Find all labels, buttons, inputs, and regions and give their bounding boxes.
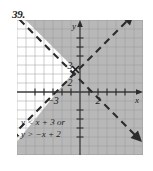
y-tick-label-2: 2 <box>68 77 73 88</box>
x-tick-label-2: 2 <box>96 95 101 106</box>
x-axis-label: x <box>134 95 139 105</box>
x-tick-label-minus-3: −3 <box>47 95 59 106</box>
y-tick-label-3: 3 <box>67 60 73 71</box>
problem-number: 39. <box>12 8 25 20</box>
inequality-caption: y < x + 3 or y > −x + 2 <box>21 117 65 140</box>
inequality-line-1: y < x + 3 or <box>21 117 65 129</box>
figure-root: 39. <box>0 0 153 171</box>
inequality-line-2: y > −x + 2 <box>21 129 65 141</box>
y-axis-label: y <box>71 21 76 31</box>
